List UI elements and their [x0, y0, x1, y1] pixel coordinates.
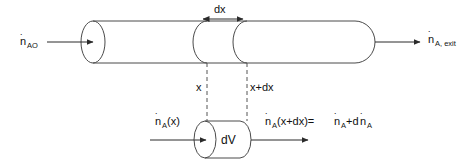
main-tube — [81, 21, 375, 63]
cv-outlet-base-symbol: n — [265, 115, 271, 127]
tube-right-cap — [355, 21, 375, 63]
exit-base-symbol: n — [428, 33, 434, 45]
projection-lines — [207, 63, 247, 121]
cv-volume-label: dV — [221, 133, 236, 147]
cv-outlet-argument: (x+dx)= — [277, 115, 314, 127]
exit-flow-label: ˙ n A, exit — [428, 30, 457, 48]
cv-outlet-rhs-base-symbol: n — [334, 115, 340, 127]
internal-cross-sections — [193, 21, 247, 63]
cv-inlet-label: ˙ n A (x) — [155, 112, 180, 130]
inlet-flow-label: ˙ n AO — [20, 33, 38, 50]
position-label-x-plus-dx: x+dx — [250, 81, 274, 93]
cv-inlet-argument: (x) — [167, 115, 180, 127]
cv-right-cap — [240, 121, 251, 158]
dx-label: dx — [214, 3, 226, 15]
cross-section-x — [193, 21, 207, 63]
inlet-subscript: AO — [27, 41, 38, 50]
inlet-base-symbol: n — [20, 35, 26, 47]
position-label-x: x — [196, 81, 202, 93]
dx-dimension: dx — [203, 3, 243, 19]
exit-subscript: A, exit — [435, 39, 457, 48]
position-labels: x x+dx — [196, 81, 274, 93]
cv-outlet-tail-base-symbol: n — [360, 115, 366, 127]
cv-inlet-base-symbol: n — [155, 115, 161, 127]
reactor-diagram: ˙ n AO ˙ n A, exit dx x x+dx — [0, 0, 475, 165]
cross-section-x-plus-dx — [233, 21, 247, 63]
cv-outlet-plus-d: +d — [346, 115, 359, 127]
cv-outlet-equation: ˙ n A (x+dx)= ˙ n A +d ˙ n A — [265, 112, 372, 130]
diagram-canvas: ˙ n AO ˙ n A, exit dx x x+dx — [0, 0, 475, 165]
cv-outlet-tail-subscript: A — [367, 121, 372, 130]
